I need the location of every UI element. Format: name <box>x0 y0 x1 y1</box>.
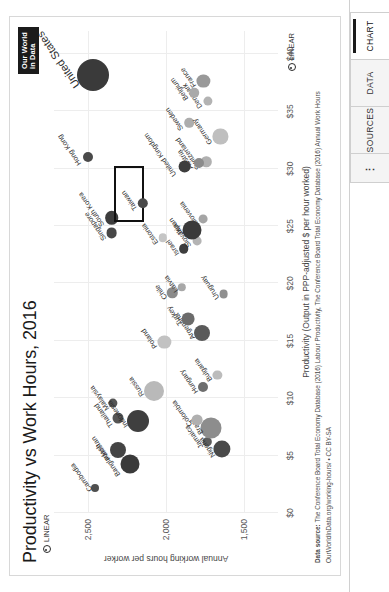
chart-tab-strip: CHARTDATASOURCES⋮ <box>349 0 389 592</box>
data-point[interactable] <box>127 410 149 432</box>
y-axis-tick-label: 2,500 <box>83 519 93 540</box>
x-axis-tick-label: $40 <box>285 47 295 61</box>
kebab-menu-icon: ⋮ <box>364 162 377 175</box>
data-point-label: Hungary <box>177 368 200 395</box>
x-axis-tick-label: $35 <box>285 104 295 118</box>
tab-label: SOURCES <box>365 108 375 153</box>
x-axis-tick-label: $30 <box>285 162 295 176</box>
data-point[interactable] <box>181 313 194 326</box>
y-axis-tick-label: 1,500 <box>238 519 248 540</box>
tab-chart[interactable]: CHART <box>350 12 389 59</box>
footer-license: OurWorldInData.org/working-hours/ • CC B… <box>325 91 334 563</box>
data-point-label: Germany <box>190 117 214 146</box>
data-point-label: Uruguay <box>197 274 220 301</box>
data-point[interactable] <box>157 335 170 348</box>
scatter-plot-area[interactable]: Productivity (Output in PPP-adjusted $ p… <box>54 31 278 513</box>
owid-chart-card: Productivity vs Work Hours, 2016 Our Wor… <box>9 16 341 576</box>
y-axis-title: Annual working hours per worker <box>103 554 227 564</box>
footer-source-text: The Conference Board Total Economy Datab… <box>314 91 321 524</box>
data-point-label: Japan <box>166 216 185 237</box>
x-axis-title: Productivity (Output in PPP-adjusted $ p… <box>301 166 311 378</box>
tab-list: CHARTDATASOURCES⋮ <box>350 12 389 183</box>
radio-icon <box>287 63 295 71</box>
data-point[interactable] <box>83 152 93 162</box>
data-point[interactable] <box>203 96 212 105</box>
data-point-label: Colombia <box>169 399 194 429</box>
radio-icon <box>42 545 50 553</box>
data-point[interactable] <box>143 381 163 401</box>
y-gridline <box>166 31 167 513</box>
data-point[interactable] <box>193 325 209 341</box>
data-point-label: United States <box>34 29 82 90</box>
tab-data[interactable]: DATA <box>350 59 389 106</box>
footer-source-prefix: Data source: <box>314 524 321 563</box>
y-gridline <box>243 31 244 513</box>
x-axis-tick-label: $20 <box>285 276 295 290</box>
chart-footer: Data source: The Conference Board Total … <box>314 91 334 563</box>
screenshot-root: Productivity vs Work Hours, 2016 Our Wor… <box>0 0 389 592</box>
data-point-label: Poland <box>139 327 159 351</box>
tab-label: CHART <box>365 20 375 51</box>
data-point-label: United Kingdom <box>141 132 178 179</box>
data-point[interactable] <box>109 442 125 458</box>
footer-source: Data source: The Conference Board Total … <box>314 91 323 563</box>
data-point-label: Bulgaria <box>192 357 215 384</box>
data-point[interactable] <box>182 220 201 239</box>
overflow-menu-button[interactable]: ⋮ <box>350 153 389 183</box>
x-axis-tick-label: $15 <box>285 334 295 348</box>
y-axis-scale-toggle[interactable]: LINEAR <box>42 515 51 553</box>
x-axis-tick-label: $5 <box>285 451 295 460</box>
page-title: Productivity vs Work Hours, 2016 <box>20 300 41 563</box>
data-point[interactable] <box>212 129 227 144</box>
x-axis-tick-label: $0 <box>285 508 295 517</box>
data-point-label: Hong Kong <box>55 133 83 168</box>
y-axis-tick-label: 2,000 <box>161 519 171 540</box>
data-point[interactable] <box>120 454 139 473</box>
tab-sources[interactable]: SOURCES <box>350 106 389 153</box>
active-tab-indicator <box>353 19 356 53</box>
data-point[interactable] <box>76 59 108 91</box>
y-axis-scale-label: LINEAR <box>42 515 51 542</box>
data-point[interactable] <box>178 160 191 173</box>
owid-logo-line1: Our World <box>21 32 29 69</box>
tab-label: DATA <box>365 71 375 94</box>
chart-viewport: Productivity vs Work Hours, 2016 Our Wor… <box>0 0 349 592</box>
data-point[interactable] <box>196 75 209 88</box>
data-point-label: Cambodia <box>68 461 94 493</box>
x-axis-tick-label: $25 <box>285 219 295 233</box>
data-point-label: Russia <box>126 376 146 399</box>
x-axis-tick-label: $10 <box>285 391 295 405</box>
